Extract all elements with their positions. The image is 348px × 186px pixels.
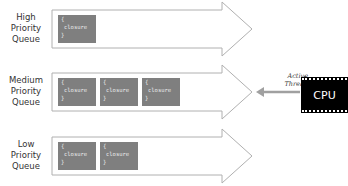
label-line: Medium	[0, 75, 52, 86]
label-line: Low	[0, 139, 52, 150]
closure-text: closure	[61, 86, 96, 94]
brace-open: {	[103, 78, 138, 86]
brace-close: }	[61, 31, 96, 39]
brace-close: }	[61, 94, 96, 102]
brace-close: }	[61, 158, 96, 166]
closure-text: closure	[61, 150, 96, 158]
active-thread-pointer	[256, 87, 300, 97]
label-line: Queue	[0, 97, 52, 108]
high-priority-queue-label: High Priority Queue	[0, 12, 52, 45]
closure-text: closure	[61, 23, 96, 31]
label-line: High	[0, 12, 52, 23]
label-line: Priority	[0, 86, 52, 97]
label-line: Priority	[0, 23, 52, 34]
cpu-chip: CPU	[302, 78, 347, 112]
label-line: Priority	[0, 150, 52, 161]
closure-block: {closure}	[58, 142, 96, 170]
brace-open: {	[61, 78, 96, 86]
brace-close: }	[103, 158, 138, 166]
cpu-label: CPU	[313, 89, 335, 102]
label-line: Queue	[0, 34, 52, 45]
closure-text: closure	[103, 150, 138, 158]
closure-text: closure	[145, 86, 180, 94]
medium-priority-queue-label: Medium Priority Queue	[0, 75, 52, 108]
low-priority-queue-label: Low Priority Queue	[0, 139, 52, 172]
brace-open: {	[103, 142, 138, 150]
closure-block: {closure}	[142, 78, 180, 106]
closure-block: {closure}	[58, 78, 96, 106]
closure-block: {closure}	[100, 78, 138, 106]
brace-open: {	[61, 15, 96, 23]
brace-open: {	[145, 78, 180, 86]
label-line: Queue	[0, 161, 52, 172]
brace-open: {	[61, 142, 96, 150]
brace-close: }	[103, 94, 138, 102]
brace-close: }	[145, 94, 180, 102]
closure-text: closure	[103, 86, 138, 94]
closure-block: {closure}	[58, 15, 96, 43]
closure-block: {closure}	[100, 142, 138, 170]
